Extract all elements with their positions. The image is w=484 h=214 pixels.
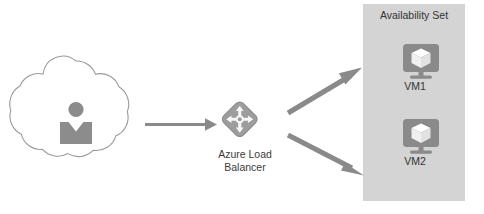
- load-balancer-to-vm2-arrow: [288, 135, 364, 176]
- availability-set-box: [363, 4, 465, 201]
- cloud-to-load-balancer-arrow: [145, 118, 217, 131]
- cloud-user-icon: [10, 56, 129, 156]
- person-head-icon: [68, 102, 83, 117]
- load-balancer-to-vm1-arrow: [288, 68, 362, 114]
- diagram-canvas: [0, 0, 484, 214]
- azure-load-balancer-diagram: Availability Set Azure Load Balancer VM1…: [0, 0, 484, 214]
- azure-load-balancer-icon: [220, 100, 259, 139]
